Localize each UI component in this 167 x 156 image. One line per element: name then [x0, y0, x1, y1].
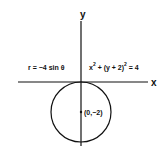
eq-suffix: = 4 [127, 64, 139, 71]
cartesian-equation: x2 + (y + 2)2 = 4 [89, 61, 139, 72]
polar-circle-diagram: y x r = −4 sin θ x2 + (y + 2)2 = 4 (0,−2… [0, 0, 167, 156]
eq-middle: + (y + 2) [96, 64, 124, 72]
center-point [80, 111, 82, 113]
x-axis-label: x [151, 77, 157, 88]
polar-equation: r = −4 sin θ [28, 64, 65, 71]
y-axis-label: y [80, 9, 86, 20]
center-label: (0,−2) [84, 109, 102, 117]
